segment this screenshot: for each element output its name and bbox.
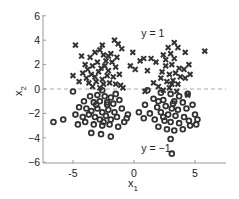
circle-marker <box>161 115 166 120</box>
circle-marker <box>184 106 189 111</box>
cross-marker <box>133 67 138 72</box>
circle-marker <box>165 127 170 132</box>
cross-marker <box>88 55 93 60</box>
y-axis-label-text: x2 <box>12 86 28 97</box>
circle-marker <box>91 122 96 127</box>
circle-marker <box>83 120 88 125</box>
cross-marker <box>172 56 177 61</box>
cross-marker <box>128 63 133 68</box>
cross-marker <box>110 60 115 65</box>
circle-marker <box>102 94 107 99</box>
circle-marker <box>136 110 141 115</box>
x-tick-label: 5 <box>192 167 198 179</box>
circle-marker <box>106 107 111 112</box>
cross-marker <box>188 72 193 77</box>
class-annotation: y = 1 <box>141 27 164 39</box>
cross-marker <box>178 74 183 79</box>
cross-marker <box>113 82 118 87</box>
circle-marker <box>108 134 113 139</box>
cross-marker <box>163 63 168 68</box>
circle-marker <box>77 105 82 110</box>
cross-marker <box>100 77 105 82</box>
y-tick-label: 6 <box>34 10 40 22</box>
cross-marker <box>169 62 174 67</box>
circle-marker <box>188 123 193 128</box>
cross-marker <box>176 45 181 50</box>
circle-marker <box>122 120 127 125</box>
y-tick-label: 4 <box>34 34 40 46</box>
cross-marker <box>156 84 161 89</box>
cross-marker <box>71 73 76 78</box>
cross-marker <box>80 71 85 76</box>
cross-marker <box>105 73 110 78</box>
cross-marker <box>90 84 95 89</box>
cross-marker <box>158 76 163 81</box>
circle-marker <box>116 124 121 129</box>
circle-marker <box>141 116 146 121</box>
cross-marker <box>115 55 120 60</box>
circle-marker <box>51 120 56 125</box>
cross-marker <box>79 54 84 59</box>
class-annotation: y = −1 <box>141 142 170 154</box>
y-tick-label: −4 <box>28 132 40 144</box>
y-tick-label: −6 <box>28 156 40 168</box>
circle-marker <box>168 120 173 125</box>
circle-marker <box>155 105 160 110</box>
x-axis-label-text: x1 <box>128 177 139 193</box>
circle-marker <box>99 132 104 137</box>
circle-marker <box>168 91 173 96</box>
cross-marker <box>95 60 100 65</box>
cross-marker <box>116 41 121 46</box>
cross-marker <box>93 50 98 55</box>
data-points <box>51 38 207 156</box>
circle-marker <box>182 115 187 120</box>
cross-marker <box>145 68 150 73</box>
cross-marker <box>97 48 102 53</box>
cross-marker <box>85 67 90 72</box>
circle-marker <box>163 104 168 109</box>
circle-marker <box>111 101 116 106</box>
cross-marker <box>151 81 156 86</box>
circle-marker <box>101 120 106 125</box>
cross-marker <box>130 50 135 55</box>
circle-marker <box>147 111 152 116</box>
cross-marker <box>154 60 159 65</box>
cross-marker <box>183 50 188 55</box>
cross-marker <box>100 43 105 48</box>
circle-marker <box>100 88 105 93</box>
cross-marker <box>101 52 106 57</box>
cross-marker <box>161 52 166 57</box>
cross-marker <box>94 79 99 84</box>
cross-marker <box>187 62 192 67</box>
cross-marker <box>113 65 118 70</box>
circle-marker <box>75 122 80 127</box>
y-tick-label: 0 <box>34 83 40 95</box>
cross-marker <box>104 59 109 64</box>
cross-marker <box>172 40 177 45</box>
y-tick-label: −2 <box>28 107 40 119</box>
circle-marker <box>177 94 182 99</box>
cross-marker <box>90 63 95 68</box>
cross-marker <box>83 62 88 67</box>
circle-marker <box>156 124 161 129</box>
circle-marker <box>115 115 120 120</box>
cross-marker <box>106 54 111 59</box>
circle-marker <box>61 117 66 122</box>
circle-marker <box>108 95 113 100</box>
cross-marker <box>166 45 171 50</box>
circle-marker <box>180 127 185 132</box>
circle-marker <box>176 107 181 112</box>
cross-marker <box>73 43 78 48</box>
circle-marker <box>88 94 93 99</box>
circle-marker <box>117 98 122 103</box>
cross-marker <box>106 68 111 73</box>
circle-marker <box>119 106 124 111</box>
circle-marker <box>89 131 94 136</box>
cross-marker <box>183 76 188 81</box>
circle-marker <box>107 122 112 127</box>
circle-marker <box>152 117 157 122</box>
circle-marker <box>172 128 177 133</box>
cross-marker <box>107 81 112 86</box>
circle-marker <box>143 102 148 107</box>
cross-marker <box>163 57 168 62</box>
